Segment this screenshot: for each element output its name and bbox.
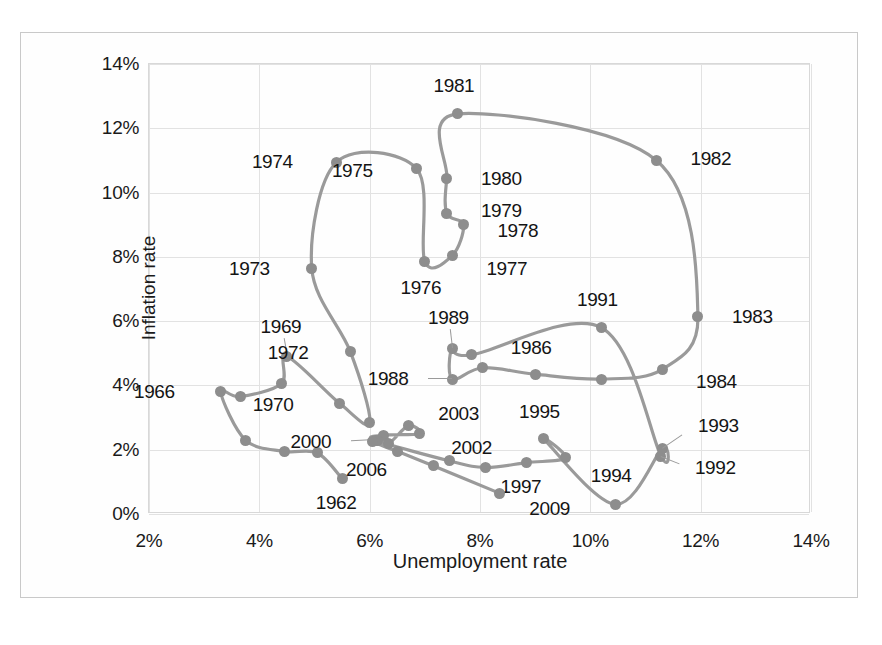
data-point-marker[interactable] [392, 446, 403, 457]
data-point-label: 1984 [696, 371, 737, 393]
x-tick-label: 8% [467, 530, 494, 552]
data-point-marker[interactable] [530, 369, 541, 380]
gridline-horizontal [149, 514, 809, 515]
data-point-label: 1962 [316, 492, 357, 514]
data-point-marker[interactable] [428, 460, 439, 471]
data-point-marker[interactable] [411, 163, 422, 174]
y-tick-label: 0% [77, 503, 139, 525]
data-point-marker[interactable] [651, 155, 662, 166]
y-tick-label: 6% [77, 310, 139, 332]
data-point-marker[interactable] [279, 446, 290, 457]
data-point-marker[interactable] [610, 499, 621, 510]
data-point-marker[interactable] [403, 420, 414, 431]
x-tick-label: 12% [682, 530, 719, 552]
x-tick-label: 4% [246, 530, 273, 552]
data-point-marker[interactable] [240, 435, 251, 446]
data-point-label: 1995 [519, 401, 560, 423]
data-point-label: 1976 [400, 277, 441, 299]
data-point-label: 1992 [695, 457, 736, 479]
data-point-label: 1981 [434, 75, 475, 97]
data-point-label: 2006 [346, 459, 387, 481]
data-point-marker[interactable] [447, 250, 458, 261]
plot-area: 1962196619691970197219731974197519761977… [148, 63, 810, 513]
y-tick-label: 12% [77, 117, 139, 139]
y-tick-label: 14% [77, 53, 139, 75]
data-point-marker[interactable] [345, 346, 356, 357]
data-point-marker[interactable] [596, 374, 607, 385]
data-point-label: 1974 [252, 151, 293, 173]
data-point-label: 1983 [732, 306, 773, 328]
data-point-marker[interactable] [334, 398, 345, 409]
x-tick-label: 14% [792, 530, 829, 552]
y-tick-label: 10% [77, 182, 139, 204]
data-point-label: 2009 [529, 498, 570, 520]
data-point-marker[interactable] [657, 364, 668, 375]
data-point-marker[interactable] [235, 391, 246, 402]
data-point-marker[interactable] [494, 488, 505, 499]
data-point-label: 1979 [481, 200, 522, 222]
data-point-label: 1969 [261, 316, 302, 338]
data-point-marker[interactable] [306, 263, 317, 274]
data-point-label: 1989 [428, 307, 469, 329]
data-point-marker[interactable] [414, 428, 425, 439]
data-point-label: 1978 [497, 220, 538, 242]
data-point-label: 1972 [268, 342, 309, 364]
data-point-marker[interactable] [596, 322, 607, 333]
data-point-label: 1991 [577, 289, 618, 311]
data-point-marker[interactable] [364, 417, 375, 428]
data-point-label: 1977 [486, 258, 527, 280]
data-point-label: 1973 [229, 258, 270, 280]
data-point-label: 1994 [591, 465, 632, 487]
x-tick-label: 10% [572, 530, 609, 552]
data-point-label: 1980 [481, 168, 522, 190]
data-point-marker[interactable] [538, 433, 549, 444]
data-point-label: 2000 [291, 431, 332, 453]
data-point-label: 1986 [511, 337, 552, 359]
data-point-marker[interactable] [447, 374, 458, 385]
data-point-marker[interactable] [441, 173, 452, 184]
data-point-label: 1966 [134, 381, 175, 403]
y-axis-title: Inflation rate [138, 236, 160, 341]
x-axis-title: Unemployment rate [149, 550, 811, 573]
x-tick-label: 2% [136, 530, 163, 552]
gridline-vertical [811, 64, 812, 512]
x-tick-label: 6% [356, 530, 383, 552]
data-point-label: 1993 [698, 415, 739, 437]
y-tick-label: 2% [77, 439, 139, 461]
data-point-label: 1982 [691, 148, 732, 170]
data-point-label: 1975 [332, 160, 373, 182]
data-point-label: 2003 [438, 403, 479, 425]
data-point-marker[interactable] [480, 462, 491, 473]
data-point-label: 1988 [368, 368, 409, 390]
data-point-label: 2002 [451, 437, 492, 459]
chart-figure: 1962196619691970197219731974197519761977… [0, 0, 882, 645]
y-tick-label: 4% [77, 374, 139, 396]
y-tick-label: 8% [77, 246, 139, 268]
data-point-label: 1997 [501, 476, 542, 498]
data-point-label: 1970 [253, 394, 294, 416]
label-leader-line [428, 378, 452, 379]
